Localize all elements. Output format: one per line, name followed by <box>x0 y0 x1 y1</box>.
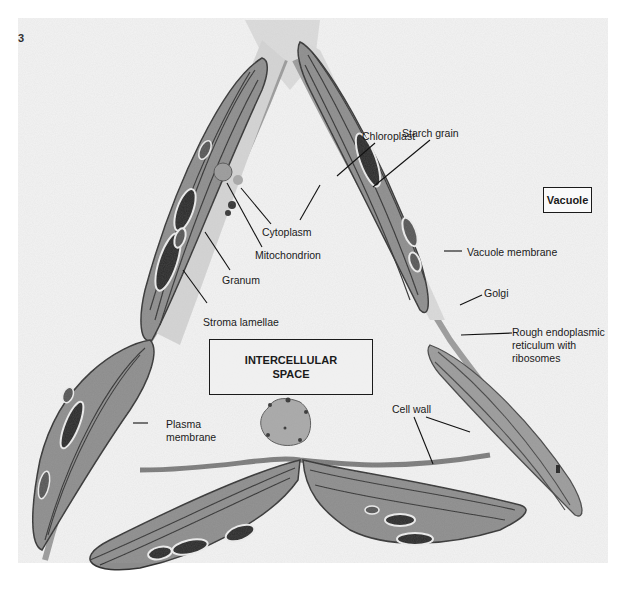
label-stroma-lamellae: Stroma lamellae <box>203 316 279 329</box>
label-mitochondrion: Mitochondrion <box>255 249 321 262</box>
region-intercellular-space: INTERCELLULAR SPACE <box>209 339 373 395</box>
label-plasma-membrane: Plasma membrane <box>166 418 216 444</box>
label-starch-grain: Starch grain <box>402 127 459 140</box>
label-golgi: Golgi <box>484 287 509 300</box>
label-rough-er: Rough endoplasmic reticulum with ribosom… <box>512 326 605 365</box>
label-granum: Granum <box>222 274 260 287</box>
region-vacuole: Vacuole <box>543 187 592 213</box>
micrograph-image <box>0 0 628 591</box>
label-vacuole-membrane: Vacuole membrane <box>467 246 557 259</box>
label-cell-wall: Cell wall <box>392 403 431 416</box>
label-cytoplasm: Cytoplasm <box>262 226 312 239</box>
